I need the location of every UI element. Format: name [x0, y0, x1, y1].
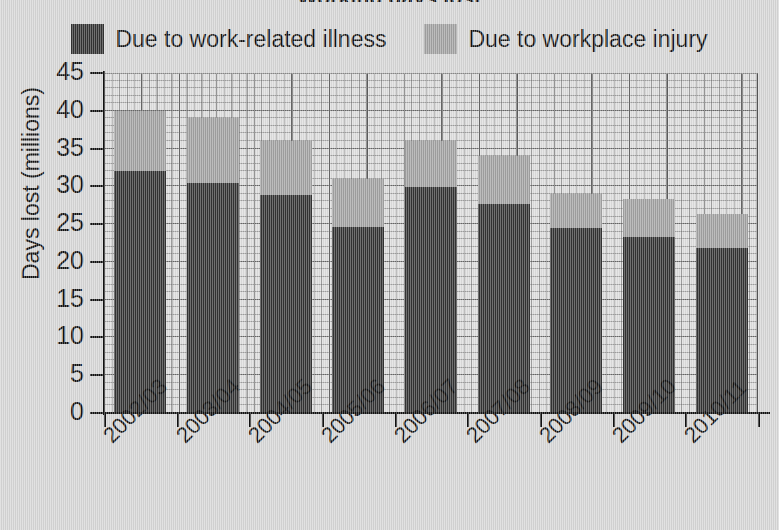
bar-segment-injury [550, 194, 602, 228]
bar-segment-injury [260, 141, 312, 195]
y-tick: 0 [89, 412, 104, 414]
y-tick: 40 [89, 110, 104, 112]
y-axis-line [103, 71, 105, 415]
y-tick: 30 [89, 185, 104, 187]
y-tick-mark [90, 299, 104, 301]
bar-segment-injury [332, 179, 384, 227]
y-tick-mark [90, 185, 104, 187]
legend-label-illness: Due to work-related illness [115, 28, 386, 51]
y-tick-mark [90, 412, 104, 414]
y-tick: 15 [89, 299, 104, 301]
bar-segment-injury [187, 118, 239, 183]
bar-2006-07[interactable] [405, 141, 457, 413]
chart-title: Working days lost [0, 0, 779, 2]
legend-label-injury: Due to workplace injury [468, 28, 707, 51]
y-tick-mark [90, 261, 104, 263]
chart-legend: Due to work-related illness Due to workp… [0, 24, 779, 54]
y-tick: 20 [89, 261, 104, 263]
chart-page: Working days lost Due to work-related il… [0, 0, 779, 530]
bar-segment-injury [114, 111, 166, 171]
y-tick: 5 [89, 374, 104, 376]
bar-2002-03[interactable] [114, 111, 166, 413]
bar-2004-05[interactable] [260, 141, 312, 413]
y-tick: 10 [89, 336, 104, 338]
legend-entry-illness: Due to work-related illness [71, 24, 386, 54]
bar-segment-injury [405, 141, 457, 187]
bar-segment-injury [478, 156, 530, 204]
y-tick: 25 [89, 223, 104, 225]
x-tick-mark [758, 413, 760, 427]
y-tick: 45 [89, 72, 104, 74]
bar-segment-injury [696, 214, 748, 248]
bar-segment-illness [114, 171, 166, 413]
y-tick: 35 [89, 148, 104, 150]
y-tick-label: 30 [56, 170, 84, 199]
bar-2007-08[interactable] [478, 156, 530, 413]
y-tick-label: 25 [56, 208, 84, 237]
y-tick-label: 20 [56, 246, 84, 275]
y-tick-label: 5 [70, 359, 84, 388]
y-tick-label: 35 [56, 133, 84, 162]
y-tick-mark [90, 374, 104, 376]
y-tick-mark [90, 110, 104, 112]
y-tick-label: 45 [56, 57, 84, 86]
legend-swatch-injury-icon [424, 24, 457, 54]
y-tick-mark [90, 148, 104, 150]
legend-entry-injury: Due to workplace injury [424, 24, 707, 54]
y-tick-label: 40 [56, 95, 84, 124]
legend-swatch-illness-icon [71, 24, 104, 54]
y-tick-label: 0 [70, 397, 84, 426]
y-axis-title: Days lost (millions) [18, 34, 45, 334]
y-tick-label: 10 [56, 321, 84, 350]
bar-segment-injury [623, 199, 675, 237]
y-tick-mark [90, 336, 104, 338]
y-tick-mark [90, 72, 104, 74]
bar-2003-04[interactable] [187, 118, 239, 413]
y-tick-mark [90, 223, 104, 225]
y-tick-label: 15 [56, 284, 84, 313]
